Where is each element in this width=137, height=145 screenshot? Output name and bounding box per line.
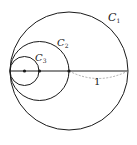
label-c1: C1 — [108, 11, 120, 24]
point-center-c2 — [38, 69, 41, 72]
point-center-c3 — [23, 69, 26, 72]
point-center-c1 — [67, 69, 70, 72]
label-c3: C3 — [35, 52, 47, 64]
label-c2: C2 — [57, 37, 69, 49]
tangent-circles-diagram: C1 C2 C3 1 — [0, 0, 137, 145]
label-radius: 1 — [94, 76, 100, 87]
